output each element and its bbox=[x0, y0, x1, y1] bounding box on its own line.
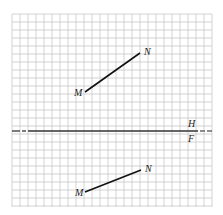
point-m-top-label: M bbox=[73, 87, 83, 98]
point-n-top-label: N bbox=[143, 46, 152, 57]
point-n-front-label: N bbox=[144, 163, 153, 174]
fold-label-f: F bbox=[187, 133, 195, 144]
fold-label-h: H bbox=[187, 118, 196, 129]
projection-diagram: H F M N M N bbox=[0, 0, 223, 215]
segment-mn-front bbox=[85, 170, 141, 192]
grid bbox=[12, 14, 212, 207]
point-m-front-label: M bbox=[74, 187, 84, 198]
